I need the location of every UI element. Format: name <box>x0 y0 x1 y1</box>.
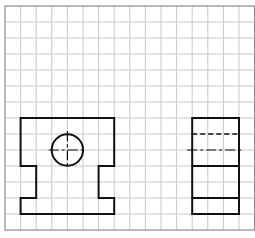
engineering-drawing <box>0 0 255 238</box>
side-view <box>187 118 244 214</box>
